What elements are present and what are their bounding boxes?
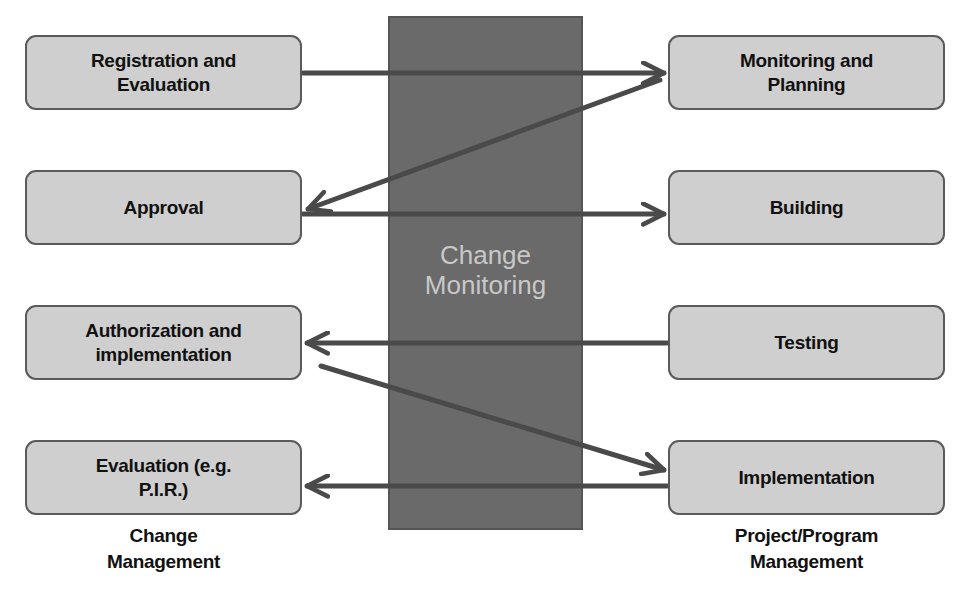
box-label-line2: Evaluation [91,73,236,97]
box-label-line1: Building [770,196,844,220]
arrow-authorization-to-implementation [321,366,664,470]
box-label-line2: implementation [85,343,241,367]
box-label-line1: Evaluation (e.g. [96,454,232,478]
box-registration-and-evaluation: Registration and Evaluation [25,35,302,110]
box-approval: Approval [25,170,302,245]
box-label-line2: P.I.R.) [96,478,232,502]
box-label-line1: Authorization and [85,319,241,343]
box-testing: Testing [668,305,945,380]
box-label-line1: Registration and [91,49,236,73]
box-building: Building [668,170,945,245]
box-label-line1: Testing [774,331,838,355]
box-monitoring-and-planning: Monitoring and Planning [668,35,945,110]
box-label-line2: Planning [740,73,873,97]
box-label-line1: Implementation [738,466,874,490]
box-implementation: Implementation [668,440,945,515]
box-label-line1: Monitoring and [740,49,873,73]
arrow-monitoring-to-approval [308,80,660,209]
box-evaluation-pir: Evaluation (e.g. P.I.R.) [25,440,302,515]
box-authorization-and-implementation: Authorization and implementation [25,305,302,380]
box-label-line1: Approval [124,196,204,220]
